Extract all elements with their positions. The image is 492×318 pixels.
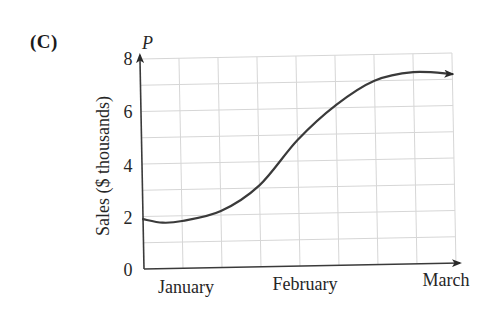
grid-lines [140,53,456,269]
y-axis [140,55,144,269]
plot-area [0,0,492,318]
x-axis [144,263,460,269]
chart-figure: (C) Sales ($ thousands) P 0 2 4 6 8 Janu… [0,0,492,318]
